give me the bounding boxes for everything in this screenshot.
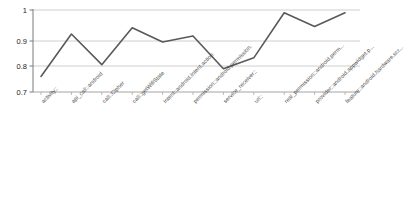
y-tick-label-3: 1 <box>23 6 27 15</box>
y-tick-label-1: 0.8 <box>17 62 27 71</box>
y-axis <box>30 9 34 92</box>
y-axis-tick-labels: 1 0.9 0.8 0.7 <box>17 6 27 97</box>
y-tick-label-0: 0.7 <box>17 88 27 97</box>
grid-lines <box>33 10 360 66</box>
x-axis <box>33 92 360 95</box>
data-series-line <box>41 13 345 77</box>
y-tick-label-2: 0.9 <box>17 37 27 46</box>
